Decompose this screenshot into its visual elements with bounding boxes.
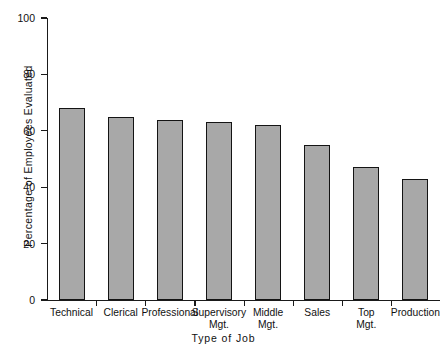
y-tick-60	[41, 130, 47, 131]
x-axis-title: Type of Job	[0, 332, 447, 344]
x-tick	[293, 300, 294, 306]
y-tick-40	[41, 187, 47, 188]
bar	[402, 179, 428, 300]
y-tick-label-20: 20	[0, 239, 35, 250]
bar	[108, 117, 134, 300]
bar-chart: Percentage of Employees Evaluated 020406…	[0, 0, 447, 349]
x-tick	[391, 300, 392, 306]
x-category-label: Production	[385, 307, 446, 319]
bar	[206, 122, 232, 300]
y-axis-line	[47, 18, 48, 301]
y-tick-100	[41, 17, 47, 18]
y-tick-80	[41, 74, 47, 75]
x-tick	[96, 300, 97, 306]
x-tick	[145, 300, 146, 306]
y-tick-label-60: 60	[0, 126, 35, 137]
bar	[59, 108, 85, 300]
y-tick-label-40: 40	[0, 182, 35, 193]
bar	[255, 125, 281, 300]
bar	[304, 145, 330, 300]
x-tick	[244, 300, 245, 306]
y-tick-0	[41, 299, 47, 300]
y-tick-label-80: 80	[0, 69, 35, 80]
y-tick-label-100: 100	[0, 13, 35, 24]
x-tick	[342, 300, 343, 306]
y-tick-20	[41, 243, 47, 244]
x-tick	[194, 300, 195, 306]
bar	[353, 167, 379, 300]
bar	[157, 120, 183, 300]
y-tick-label-0: 0	[0, 295, 35, 306]
